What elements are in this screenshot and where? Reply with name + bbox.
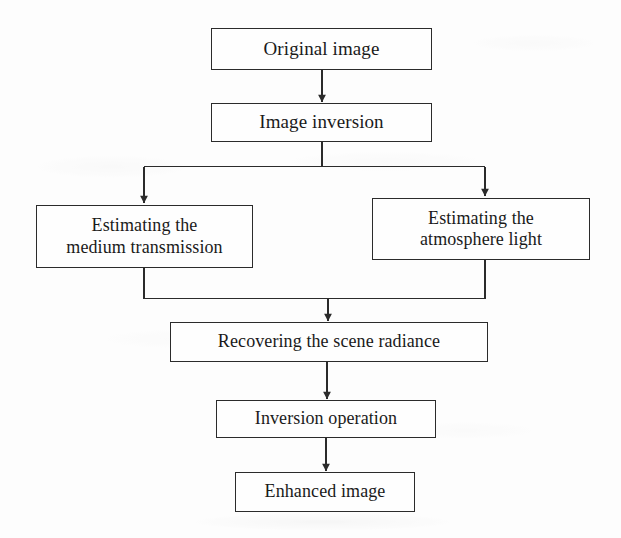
node-recovering-scene-radiance-label: Recovering the scene radiance: [212, 331, 446, 352]
node-original-image: Original image: [211, 28, 432, 70]
node-original-image-label: Original image: [258, 38, 386, 60]
node-enhanced-image-label: Enhanced image: [259, 481, 392, 502]
node-inversion-operation: Inversion operation: [216, 400, 436, 438]
node-estimating-medium-transmission: Estimating the medium transmission: [36, 205, 253, 268]
node-estimating-atmosphere-light: Estimating the atmosphere light: [372, 198, 590, 260]
flowchart-connectors: [0, 0, 621, 538]
node-image-inversion-label: Image inversion: [253, 111, 389, 133]
node-recovering-scene-radiance: Recovering the scene radiance: [170, 322, 488, 362]
node-enhanced-image: Enhanced image: [235, 472, 415, 512]
node-inversion-operation-label: Inversion operation: [249, 408, 403, 429]
node-estimating-atmosphere-light-label: Estimating the atmosphere light: [414, 208, 548, 250]
node-image-inversion: Image inversion: [211, 103, 432, 142]
node-estimating-medium-transmission-label: Estimating the medium transmission: [60, 215, 228, 257]
flowchart-canvas: Original image Image inversion Estimatin…: [0, 0, 621, 538]
